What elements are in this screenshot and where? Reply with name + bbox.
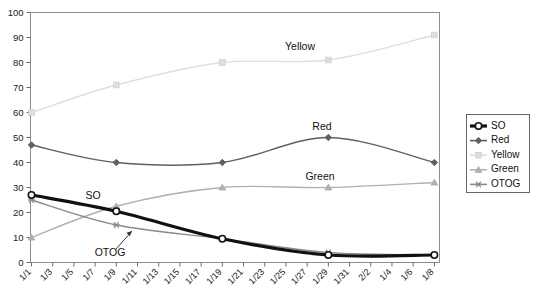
annotation-so: SO	[85, 189, 100, 201]
y-tick-label: 50	[13, 132, 24, 143]
annotation-green: Green	[305, 170, 334, 182]
x-tick-label: 1/15	[162, 267, 181, 286]
legend-label-yellow[interactable]: Yellow	[491, 149, 520, 160]
y-tick-label: 40	[13, 157, 24, 168]
x-tick-label: 1/3	[38, 267, 54, 283]
y-tick-label: 80	[13, 57, 24, 68]
data-point-marker	[326, 57, 332, 63]
x-tick-label: 1/11	[120, 267, 139, 286]
data-point-marker	[220, 60, 226, 66]
y-tick-label: 90	[13, 32, 24, 43]
x-axis: 1/11/31/51/71/91/111/131/151/171/191/211…	[17, 263, 436, 287]
x-tick-label: 1/27	[289, 267, 308, 286]
chart-figure: 0102030405060708090100 1/11/31/51/71/91/…	[0, 0, 534, 300]
x-tick-label: 1/29	[310, 267, 329, 286]
y-axis: 0102030405060708090100	[8, 7, 31, 268]
x-tick-label: 1/23	[247, 267, 266, 286]
y-tick-label: 10	[13, 232, 24, 243]
x-tick-label: 1/4	[377, 267, 393, 283]
y-tick-label: 60	[13, 107, 24, 118]
data-point-marker	[432, 32, 438, 38]
legend-label-so[interactable]: SO	[491, 120, 506, 131]
x-tick-label: 1/1	[17, 267, 33, 283]
legend-label-green[interactable]: Green	[491, 163, 519, 174]
x-tick-label: 1/19	[204, 267, 223, 286]
x-tick-label: 1/7	[81, 267, 97, 283]
x-tick-label: 1/25	[268, 267, 287, 286]
y-tick-label: 0	[18, 257, 23, 268]
legend-label-otog[interactable]: OTOG	[491, 178, 520, 189]
x-tick-label: 1/6	[399, 267, 415, 283]
data-point-marker	[28, 192, 34, 198]
legend-label-red[interactable]: Red	[491, 134, 509, 145]
x-tick-label: 1/5	[59, 267, 75, 283]
y-tick-label: 20	[13, 207, 24, 218]
annotation-red: Red	[312, 120, 331, 132]
data-point-marker	[29, 110, 35, 116]
annotation-yellow: Yellow	[285, 40, 315, 52]
data-point-marker	[114, 82, 120, 88]
line-chart-svg: 0102030405060708090100 1/11/31/51/71/91/…	[0, 0, 534, 300]
x-tick-label: 1/31	[331, 267, 350, 286]
annotation-otog: OTOG	[95, 246, 126, 258]
data-point-marker	[219, 236, 225, 242]
x-tick-label: 1/13	[141, 267, 160, 286]
y-tick-label: 30	[13, 182, 24, 193]
x-tick-label: 1/8	[420, 267, 436, 283]
x-tick-label: 1/9	[102, 267, 118, 283]
data-point-marker	[431, 252, 437, 258]
data-point-marker	[113, 208, 119, 214]
x-tick-label: 2/2	[356, 267, 372, 283]
legend-swatch-marker	[476, 152, 482, 158]
data-point-marker	[325, 252, 331, 258]
x-tick-label: 1/21	[225, 267, 244, 286]
y-tick-label: 70	[13, 82, 24, 93]
y-tick-label: 100	[8, 7, 24, 18]
legend-swatch-marker	[475, 123, 481, 129]
chart-legend: SORedYellowGreenOTOG	[467, 115, 530, 193]
x-tick-label: 1/17	[183, 267, 202, 286]
